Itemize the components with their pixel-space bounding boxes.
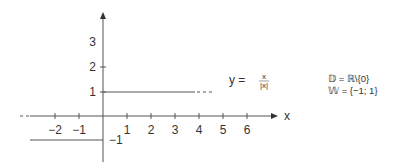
x-tick-label: −1	[72, 123, 86, 137]
x-axis-label: x	[284, 109, 290, 123]
x-tick-label: 6	[244, 123, 251, 137]
x-tick-label: 4	[196, 123, 203, 137]
x-tick-label: −2	[48, 123, 62, 137]
function-label: y =	[229, 73, 245, 87]
domain-text: 𝔻 = ℝ\{0}	[328, 73, 378, 85]
x-tick-label: 1	[124, 123, 131, 137]
y-tick-label: 1	[89, 85, 96, 99]
fraction-denominator: |x|	[260, 81, 268, 90]
fraction-numerator: x	[262, 72, 266, 81]
y-tick-label: 3	[89, 35, 96, 49]
domain-range-info: 𝔻 = ℝ\{0} 𝕎 = {−1; 1}	[328, 73, 378, 97]
x-tick-label: 3	[172, 123, 179, 137]
x-tick-label: 2	[148, 123, 155, 137]
x-tick-label: 5	[220, 123, 227, 137]
range-text: 𝕎 = {−1; 1}	[328, 85, 378, 97]
x-axis-arrow-icon	[271, 113, 278, 119]
y-tick-label: −1	[109, 133, 123, 147]
y-axis-arrow-icon	[100, 12, 106, 19]
y-tick-label: 2	[89, 60, 96, 74]
